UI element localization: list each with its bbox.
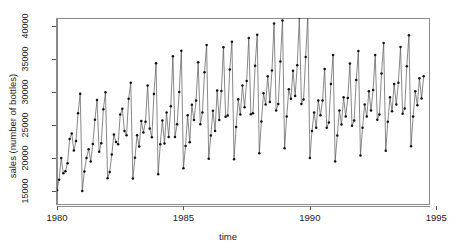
- data-point: [108, 171, 111, 174]
- data-point: [262, 92, 265, 95]
- data-point: [258, 152, 261, 155]
- data-point: [134, 157, 137, 160]
- data-point: [420, 97, 423, 100]
- data-point: [401, 113, 404, 116]
- data-point: [422, 75, 425, 78]
- data-point: [218, 119, 221, 122]
- data-point: [414, 90, 417, 93]
- data-point: [412, 115, 415, 118]
- data-point: [205, 44, 208, 47]
- data-point: [340, 123, 343, 126]
- data-point: [79, 92, 82, 95]
- data-point: [176, 123, 179, 126]
- data-point: [155, 62, 158, 65]
- data-point: [186, 114, 189, 117]
- data-point: [416, 104, 419, 107]
- x-tick-label: 1990: [299, 212, 320, 223]
- data-point: [290, 97, 293, 100]
- x-axis-title: time: [0, 231, 456, 242]
- y-tick-mark: [52, 191, 56, 192]
- data-point: [370, 109, 373, 112]
- data-point: [309, 157, 312, 160]
- data-point: [279, 60, 282, 63]
- data-point: [170, 105, 173, 108]
- data-point: [300, 103, 303, 106]
- data-point: [319, 114, 322, 117]
- data-point: [123, 130, 126, 133]
- data-point: [313, 111, 316, 114]
- data-point: [96, 99, 99, 102]
- y-tick-label-text: 25000: [20, 113, 30, 138]
- data-point: [64, 170, 67, 173]
- data-point: [264, 103, 267, 106]
- data-point: [288, 88, 291, 91]
- data-point: [342, 96, 345, 99]
- data-point: [207, 158, 210, 161]
- data-point: [266, 75, 269, 78]
- data-point: [292, 70, 295, 73]
- data-point: [62, 172, 65, 175]
- y-tick-mark: [52, 125, 56, 126]
- data-point: [111, 153, 114, 156]
- series-layer: [57, 18, 430, 205]
- data-point: [167, 136, 170, 139]
- data-point: [193, 119, 196, 122]
- data-point: [127, 97, 130, 100]
- data-point: [180, 50, 183, 53]
- data-point: [395, 103, 398, 106]
- data-point: [66, 162, 69, 165]
- data-point: [191, 104, 194, 107]
- data-point: [235, 126, 238, 129]
- y-tick-mark: [52, 59, 56, 60]
- data-point: [117, 143, 120, 146]
- x-tick-mark: [436, 206, 437, 210]
- chart-container: 150002000025000300003500040000 sales (nu…: [0, 0, 456, 252]
- data-point: [368, 90, 371, 93]
- y-tick-mark: [52, 26, 56, 27]
- data-point: [285, 115, 288, 118]
- data-point: [130, 82, 133, 85]
- data-point: [224, 116, 227, 119]
- data-point: [315, 126, 318, 129]
- y-tick-mark: [52, 158, 56, 159]
- data-point: [87, 148, 90, 151]
- data-point: [254, 65, 257, 68]
- data-point: [222, 46, 225, 49]
- data-point: [418, 77, 421, 80]
- data-point: [252, 112, 255, 115]
- data-point: [73, 149, 76, 152]
- x-axis-line: [57, 206, 430, 207]
- data-point: [157, 173, 160, 176]
- data-point: [140, 120, 143, 123]
- data-point: [353, 119, 356, 122]
- data-point: [142, 131, 145, 134]
- data-point: [378, 113, 381, 116]
- x-tick-mark: [310, 206, 311, 210]
- data-point: [199, 123, 202, 126]
- data-point: [75, 140, 78, 143]
- series-line: [57, 18, 424, 191]
- data-point: [277, 103, 280, 106]
- y-tick-label-text: 35000: [20, 46, 30, 71]
- data-point: [113, 133, 116, 136]
- y-tick-mark: [52, 92, 56, 93]
- data-point: [410, 145, 413, 148]
- data-point: [389, 96, 392, 99]
- data-point: [302, 98, 305, 101]
- data-point: [397, 82, 400, 85]
- data-point: [349, 62, 352, 64]
- data-point: [132, 177, 135, 180]
- data-point: [197, 61, 200, 64]
- data-point: [239, 113, 242, 116]
- data-point: [298, 18, 301, 19]
- data-point: [304, 56, 307, 59]
- data-point: [330, 83, 333, 86]
- data-point: [248, 37, 251, 40]
- data-point: [153, 93, 156, 96]
- data-point: [163, 142, 166, 145]
- data-point: [216, 89, 219, 92]
- data-point: [317, 99, 320, 102]
- data-point: [104, 91, 107, 94]
- data-point: [275, 109, 278, 112]
- data-point: [98, 150, 101, 153]
